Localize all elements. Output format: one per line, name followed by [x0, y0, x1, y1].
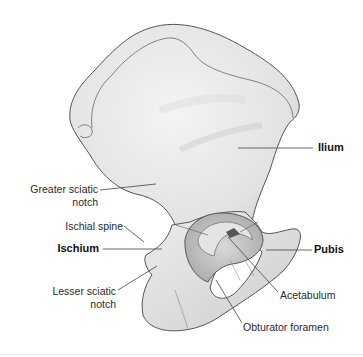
ilium-shape — [70, 24, 300, 245]
label-obturator-foramen: Obturator foramen — [243, 321, 329, 333]
label-greater-sciatic-notch-line1: Greater sciatic — [30, 183, 98, 195]
label-ilium: Ilium — [318, 141, 344, 153]
label-lesser-sciatic-notch-line1: Lesser sciatic — [52, 285, 116, 297]
label-ischium: Ischium — [57, 242, 99, 254]
bottom-divider — [0, 354, 363, 355]
label-greater-sciatic-notch-line2: notch — [72, 196, 98, 208]
leader-ischial-spine — [124, 226, 144, 242]
label-ischial-spine: Ischial spine — [65, 220, 123, 232]
hip-bone-illustration — [0, 0, 363, 357]
label-pubis: Pubis — [314, 243, 344, 255]
label-lesser-sciatic-notch-line2: notch — [90, 298, 116, 310]
label-acetabulum: Acetabulum — [280, 289, 335, 301]
